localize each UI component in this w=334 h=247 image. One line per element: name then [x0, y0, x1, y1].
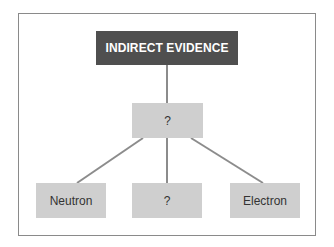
leaf-node-label: ?	[164, 194, 171, 208]
middle-node-label: ?	[164, 114, 171, 128]
middle-node-unknown: ?	[132, 103, 203, 138]
leaf-node-electron: Electron	[230, 183, 300, 218]
leaf-node-label: Electron	[243, 194, 287, 208]
leaf-node-unknown: ?	[132, 183, 202, 218]
leaf-node-neutron: Neutron	[36, 183, 106, 218]
root-node-indirect-evidence: INDIRECT EVIDENCE	[96, 31, 238, 65]
edge-middle-to-neutron	[77, 138, 143, 183]
edge-middle-to-electron	[191, 138, 263, 183]
root-node-label: INDIRECT EVIDENCE	[105, 41, 228, 55]
leaf-node-label: Neutron	[50, 194, 93, 208]
